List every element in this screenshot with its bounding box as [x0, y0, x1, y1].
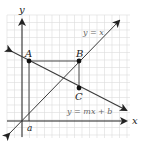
y-axis-label: y [18, 4, 25, 15]
point-B [77, 59, 82, 64]
cobweb-diagram: A B C y = x y = mx + b x y a [0, 0, 142, 141]
point-A-label: A [24, 48, 32, 59]
x-marker-a-label: a [27, 123, 32, 133]
identity-line [9, 21, 119, 134]
point-C-label: C [75, 91, 83, 102]
linear-function-label: y = mx + b [66, 107, 112, 116]
identity-line-label: y = x [82, 28, 104, 37]
point-A [27, 59, 32, 64]
grid [7, 15, 130, 138]
point-C [77, 86, 82, 91]
x-axis-label: x [132, 115, 138, 126]
point-B-label: B [75, 48, 83, 59]
